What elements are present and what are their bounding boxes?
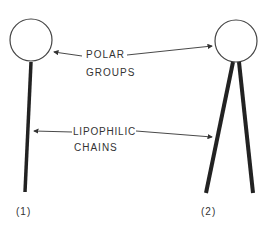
polar-head-circle <box>10 19 52 61</box>
caption-molecule-2: (2) <box>201 207 216 217</box>
polar-head-circle <box>215 20 257 62</box>
molecule-2 <box>206 20 257 193</box>
label-groups: GROUPS <box>86 68 135 78</box>
lipophilic-tail-left <box>206 62 233 193</box>
caption-molecule-1: (1) <box>16 207 31 217</box>
lipophilic-tail <box>25 62 31 192</box>
lipophilic-tail-right <box>239 62 253 193</box>
molecule-1 <box>10 19 52 192</box>
label-polar: POLAR <box>86 50 125 60</box>
label-chains: CHAINS <box>74 143 118 153</box>
label-lipophilic: LIPOPHILIC <box>73 127 136 137</box>
diagram-graphics <box>0 0 272 226</box>
arrow-lipophilic-left <box>34 131 72 132</box>
arrow-polar-right <box>127 46 212 55</box>
arrow-polar-left <box>54 52 82 56</box>
amphiphile-diagram: POLAR GROUPS LIPOPHILIC CHAINS (1) (2) <box>0 0 272 226</box>
arrow-lipophilic-right <box>136 131 212 137</box>
